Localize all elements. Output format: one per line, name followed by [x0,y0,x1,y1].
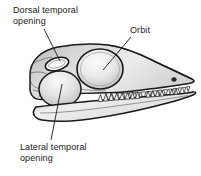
label-lateral-line1: Lateral temporal [20,142,87,153]
label-orbit: Orbit [130,25,150,36]
label-lateral-line2: opening [20,153,87,164]
label-dorsal-line1: Dorsal temporal [13,5,78,16]
skull-diagram-figure: Dorsal temporal opening Orbit Lateral te… [0,0,201,176]
naris-icon [172,78,177,82]
label-dorsal-line2: opening [13,16,78,27]
label-orbit-line1: Orbit [130,25,150,36]
lateral-temporal-opening [39,71,81,107]
label-lateral-temporal-opening: Lateral temporal opening [20,142,87,163]
label-dorsal-temporal-opening: Dorsal temporal opening [13,5,78,26]
